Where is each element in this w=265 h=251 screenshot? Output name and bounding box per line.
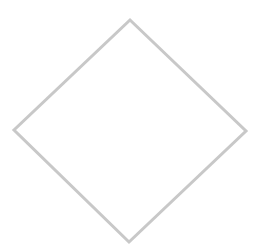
- decision-diamond[interactable]: [14, 20, 246, 242]
- diagram-canvas: [0, 0, 265, 251]
- diagram-svg: [0, 0, 265, 251]
